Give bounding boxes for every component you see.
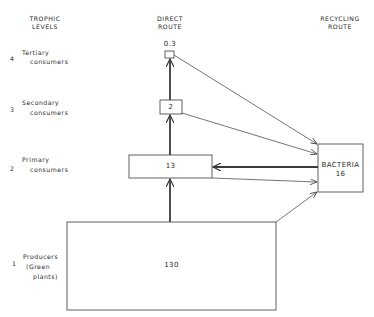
bacteria-label: BACTERIA <box>318 161 363 169</box>
tertiary-box <box>165 51 174 58</box>
bacteria-value: 16 <box>318 170 363 178</box>
arrow-secondary-to-bacteria <box>182 113 317 154</box>
energy-flow-diagram <box>0 0 374 317</box>
secondary-value: 2 <box>160 103 182 111</box>
producers-value: 130 <box>67 261 276 269</box>
arrow-producers-to-bacteria <box>276 192 317 222</box>
primary-value: 13 <box>129 162 212 170</box>
arrow-primary-to-bacteria <box>212 178 317 182</box>
arrow-tertiary-to-bacteria <box>174 55 317 144</box>
tertiary-value: 0.3 <box>155 40 185 48</box>
